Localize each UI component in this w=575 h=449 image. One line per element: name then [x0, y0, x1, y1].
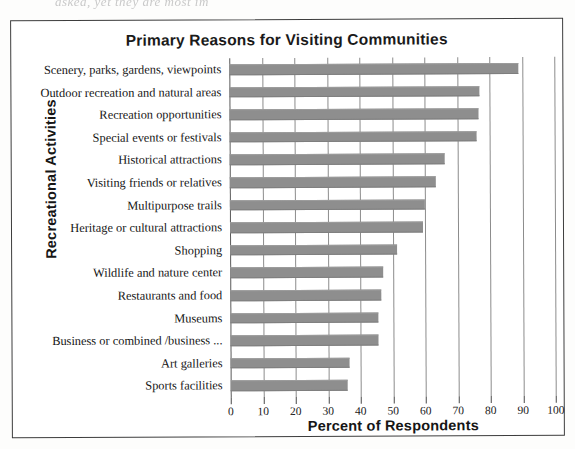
bar	[230, 244, 397, 255]
bar-row	[230, 148, 445, 172]
category-label: Business or combined /business ...	[20, 329, 226, 352]
category-label: Historical attractions	[20, 149, 226, 172]
x-tick-mark-90	[523, 396, 524, 403]
x-axis-ticks: 0102030405060708090100	[231, 396, 556, 404]
x-tick-label-60: 60	[420, 404, 432, 416]
x-axis-title: Percent of Respondents	[231, 417, 556, 434]
x-tick-label-50: 50	[388, 405, 400, 417]
bar-row	[230, 216, 423, 239]
bar	[229, 63, 518, 75]
x-tick-label-90: 90	[518, 404, 530, 416]
x-tick-label-70: 70	[453, 404, 465, 416]
x-tick-label-80: 80	[485, 404, 497, 416]
bar-row	[231, 352, 350, 375]
bar-row	[230, 261, 383, 284]
category-label: Special events or festivals	[20, 126, 226, 149]
x-tick-label-100: 100	[547, 404, 564, 416]
x-tick-label-40: 40	[355, 405, 367, 417]
category-label: Visiting friends or relatives	[20, 171, 226, 194]
bar-row	[231, 374, 348, 397]
bar	[231, 380, 348, 391]
bar	[231, 358, 350, 369]
category-label: Scenery, parks, gardens, viewpoints	[19, 58, 225, 81]
bar	[230, 267, 383, 278]
bar-row	[229, 102, 478, 126]
category-label: Art galleries	[21, 352, 227, 375]
x-tick-label-10: 10	[258, 405, 270, 417]
category-label: Restaurants and food	[20, 284, 226, 307]
plot-area: 0102030405060708090100	[229, 57, 555, 397]
category-label: Outdoor recreation and natural areas	[19, 81, 225, 104]
x-tick-mark-80	[491, 396, 492, 403]
x-tick-mark-10	[263, 397, 264, 404]
chart-title: Primary Reasons for Visiting Communities	[11, 30, 562, 50]
bar-row	[230, 125, 477, 149]
x-tick-label-30: 30	[323, 405, 335, 417]
x-tick-mark-0	[231, 397, 232, 404]
bar	[230, 131, 477, 143]
bar-row	[230, 238, 397, 261]
bar	[230, 312, 378, 323]
bar-series	[229, 57, 555, 397]
bar-row	[230, 329, 378, 352]
x-tick-mark-100	[556, 396, 557, 403]
x-tick-mark-20	[296, 397, 297, 404]
category-label: Wildlife and nature center	[20, 262, 226, 285]
category-label: Multipurpose trails	[20, 194, 226, 217]
bar	[230, 222, 423, 233]
bar	[230, 154, 445, 165]
x-tick-label-0: 0	[228, 405, 234, 417]
x-tick-label-20: 20	[290, 405, 302, 417]
bar	[229, 108, 478, 120]
bar-row	[229, 57, 518, 81]
x-tick-mark-50	[393, 397, 394, 404]
category-label: Heritage or cultural attractions	[20, 216, 226, 239]
bar	[230, 290, 381, 301]
bar-row	[230, 306, 378, 329]
x-tick-mark-70	[458, 396, 459, 403]
category-label-column: Scenery, parks, gardens, viewpointsOutdo…	[19, 58, 226, 398]
bar	[230, 335, 378, 346]
x-tick-mark-60	[426, 396, 427, 403]
bar	[229, 86, 479, 98]
page-top-text-fragment: asked, yet they are most im	[55, 0, 209, 10]
category-label: Sports facilities	[21, 375, 227, 398]
bar-row	[230, 284, 381, 307]
x-tick-mark-30	[328, 397, 329, 404]
bar-row	[230, 193, 425, 216]
bar-row	[230, 170, 436, 193]
category-label: Recreation opportunities	[19, 103, 225, 126]
category-label: Shopping	[20, 239, 226, 262]
bar	[230, 176, 436, 187]
figure-box: Primary Reasons for Visiting Communities…	[10, 18, 565, 438]
bar	[230, 199, 425, 210]
x-tick-mark-40	[361, 397, 362, 404]
bar-row	[229, 80, 479, 104]
category-label: Museums	[20, 307, 226, 330]
